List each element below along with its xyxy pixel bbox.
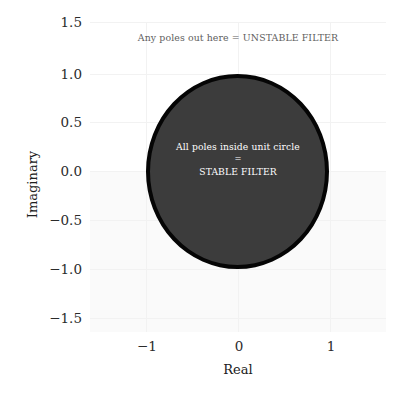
- plot-area: Any poles out here = UNSTABLE FILTER All…: [90, 22, 386, 332]
- x-tick-label--1: −1: [127, 339, 167, 353]
- y-tick-label-0.5: 0.5: [0, 115, 82, 129]
- y-tick-label-1.0: 1.0: [0, 67, 82, 81]
- x-tick-label-0: 0: [219, 339, 259, 353]
- y-tick-label--0.5: −0.5: [0, 213, 82, 227]
- y-tick-label-0.0: 0.0: [0, 164, 82, 178]
- y-tick-label--1.5: −1.5: [0, 311, 82, 325]
- unit-circle-region: [146, 74, 329, 269]
- y-tick-label--1.0: −1.0: [0, 262, 82, 276]
- x-axis-label: Real: [90, 362, 386, 377]
- gridline-x-1: [330, 22, 331, 332]
- unstable-region-label: Any poles out here = UNSTABLE FILTER: [90, 32, 386, 43]
- x-tick-label-1: 1: [311, 339, 351, 353]
- y-tick-label-1.5: 1.5: [0, 15, 82, 29]
- y-axis-label: Imaginary: [25, 115, 40, 255]
- pole-zero-stability-plot: Any poles out here = UNSTABLE FILTER All…: [0, 0, 402, 394]
